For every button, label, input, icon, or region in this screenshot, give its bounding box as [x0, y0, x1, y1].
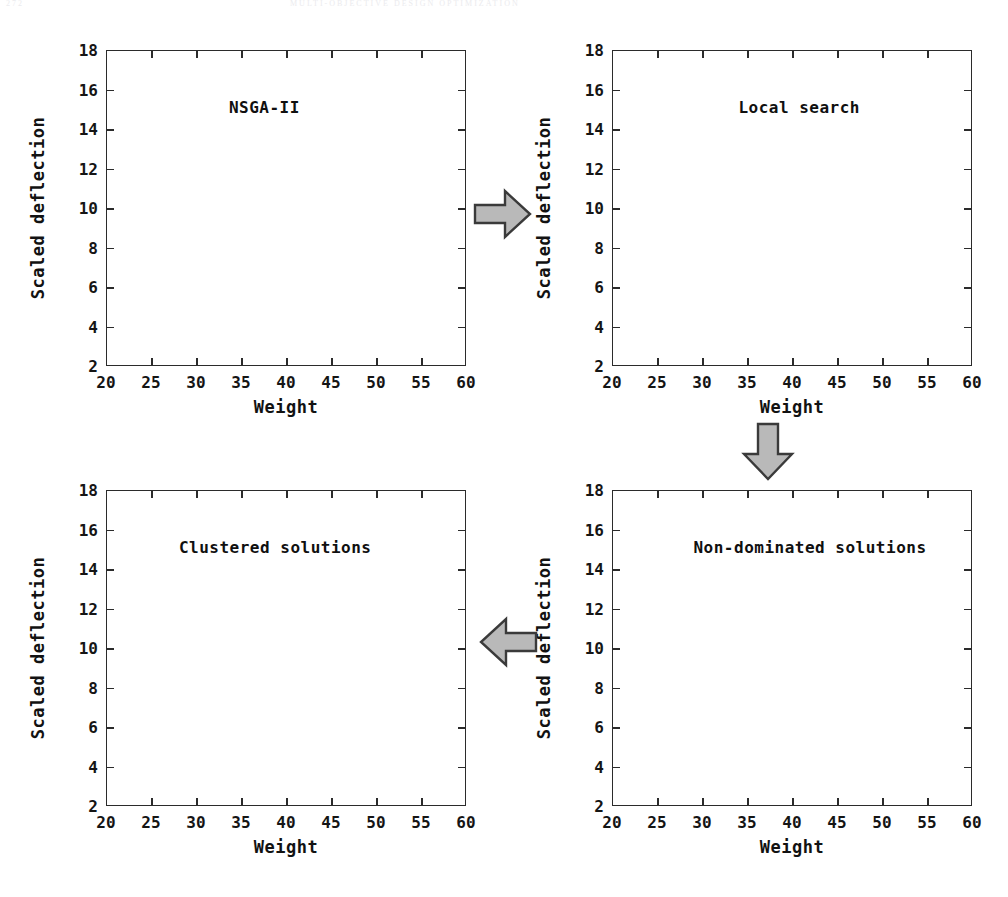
y-tick-label: 2 [62, 357, 98, 376]
x-tick-top [927, 491, 928, 498]
y-tick-label: 14 [62, 120, 98, 139]
x-tick-label: 30 [692, 373, 711, 392]
x-tick [196, 358, 197, 365]
y-tick-label: 12 [568, 599, 604, 618]
x-tick [421, 798, 422, 805]
x-tick-label: 20 [602, 813, 621, 832]
page-header: 272 MULTI-OBJECTIVE DESIGN OPTIMIZATION [0, 0, 1008, 9]
x-tick-top [837, 51, 838, 58]
y-tick-right [964, 248, 971, 249]
x-tick [882, 798, 883, 805]
page-header-center: MULTI-OBJECTIVE DESIGN OPTIMIZATION [290, 0, 520, 8]
y-tick-right [458, 727, 465, 728]
x-tick-label: 20 [96, 373, 115, 392]
x-tick-label: 50 [872, 373, 891, 392]
y-axis-title: Scaled deflection [534, 117, 554, 300]
y-tick [613, 530, 620, 531]
y-tick-label: 10 [62, 639, 98, 658]
x-tick [376, 358, 377, 365]
x-tick-label: 30 [186, 373, 205, 392]
y-tick-right [964, 208, 971, 209]
y-tick [107, 169, 114, 170]
y-tick-label: 16 [568, 80, 604, 99]
y-tick-right [458, 169, 465, 170]
x-tick-label: 35 [737, 813, 756, 832]
x-tick-label: 45 [827, 373, 846, 392]
x-tick-label: 50 [872, 813, 891, 832]
arrow-local-to-nondominated [737, 421, 799, 483]
x-tick-label: 20 [602, 373, 621, 392]
x-tick-top [421, 51, 422, 58]
y-tick-right [964, 530, 971, 531]
chart-title-nsga-ii: NSGA-II [229, 98, 300, 117]
y-tick-label: 12 [62, 159, 98, 178]
y-tick-label: 18 [62, 41, 98, 60]
y-tick [107, 129, 114, 130]
x-tick [286, 358, 287, 365]
x-tick-top [331, 51, 332, 58]
y-tick-right [964, 90, 971, 91]
x-tick-label: 45 [321, 373, 340, 392]
x-tick-top [792, 491, 793, 498]
y-tick [107, 208, 114, 209]
y-tick-right [964, 327, 971, 328]
y-tick-label: 18 [62, 481, 98, 500]
y-tick-label: 6 [62, 718, 98, 737]
y-tick-right [458, 688, 465, 689]
x-tick-label: 25 [141, 373, 160, 392]
x-tick-top [286, 51, 287, 58]
y-tick-label: 6 [568, 718, 604, 737]
x-tick-top [657, 51, 658, 58]
x-tick [657, 798, 658, 805]
x-tick [747, 798, 748, 805]
x-tick [241, 798, 242, 805]
y-tick [107, 648, 114, 649]
y-axis-title: Scaled deflection [28, 557, 48, 740]
x-tick-label: 40 [276, 813, 295, 832]
x-tick-top [882, 491, 883, 498]
y-tick-label: 10 [568, 639, 604, 658]
y-tick-label: 14 [568, 120, 604, 139]
y-tick [107, 248, 114, 249]
y-tick-right [458, 129, 465, 130]
x-tick-label: 30 [692, 813, 711, 832]
x-tick-label: 25 [141, 813, 160, 832]
y-tick-right [964, 287, 971, 288]
y-tick-right [964, 169, 971, 170]
y-tick [613, 287, 620, 288]
y-tick [613, 248, 620, 249]
y-tick-right [964, 569, 971, 570]
x-tick [792, 798, 793, 805]
y-tick [107, 90, 114, 91]
x-axis-title: Weight [760, 837, 824, 857]
y-tick-right [458, 208, 465, 209]
x-tick-label: 40 [276, 373, 295, 392]
x-tick-label: 60 [962, 373, 981, 392]
x-tick-top [702, 51, 703, 58]
x-tick-top [837, 491, 838, 498]
x-tick-label: 55 [411, 373, 430, 392]
x-tick-top [747, 491, 748, 498]
y-tick-label: 10 [62, 199, 98, 218]
y-tick-right [458, 648, 465, 649]
y-tick-right [458, 248, 465, 249]
x-tick-top [151, 491, 152, 498]
x-tick-top [792, 51, 793, 58]
x-tick-top [241, 491, 242, 498]
x-tick [837, 358, 838, 365]
x-tick-label: 35 [231, 813, 250, 832]
y-tick [613, 648, 620, 649]
y-tick-right [458, 327, 465, 328]
y-tick-right [458, 90, 465, 91]
x-tick [927, 798, 928, 805]
y-tick-right [964, 129, 971, 130]
x-tick [792, 358, 793, 365]
y-tick [107, 767, 114, 768]
x-tick-top [151, 51, 152, 58]
y-tick [613, 129, 620, 130]
x-tick [151, 798, 152, 805]
y-tick-label: 4 [568, 317, 604, 336]
x-tick [151, 358, 152, 365]
y-tick-right [964, 688, 971, 689]
x-tick-top [927, 51, 928, 58]
